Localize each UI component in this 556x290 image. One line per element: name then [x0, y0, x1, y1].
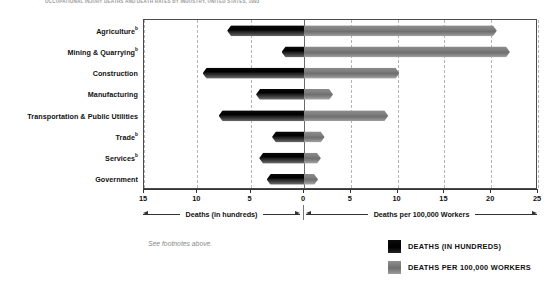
gridline-25: [538, 20, 539, 188]
x-tick: [250, 189, 251, 193]
bar-face: [304, 68, 399, 79]
bar-deaths-manufacturing: [256, 89, 304, 100]
bar-face: [304, 131, 325, 142]
x-tick: [537, 189, 538, 193]
bar-face: [304, 110, 388, 121]
right-arrow-icon: [475, 214, 537, 215]
bar-face: [203, 68, 304, 79]
plot-area: AgriculturebMining & QuarryingbConstruct…: [143, 19, 537, 189]
x-tick-label: 15: [139, 194, 147, 203]
category-label-trade: Tradeb: [116, 132, 138, 141]
axis-label-right-group: Deaths per 100,000 Workers: [306, 207, 537, 221]
bar-deaths-transportation-public-utilities: [219, 110, 304, 121]
category-label-agriculture: Agricultureb: [96, 26, 138, 35]
x-tick: [350, 189, 351, 193]
bar-row: Government: [144, 169, 536, 190]
x-tick: [443, 189, 444, 193]
x-tick: [196, 189, 197, 193]
bar-row: Manufacturing: [144, 84, 536, 105]
bar-rate-construction: [304, 68, 399, 79]
bar-row: Servicesb: [144, 148, 536, 169]
bar-row: Tradeb: [144, 126, 536, 147]
bar-rate-services: [304, 153, 321, 164]
axis-label-rate: Deaths per 100,000 Workers: [371, 210, 473, 219]
left-arrow-icon: [306, 214, 368, 215]
x-tick-label: 0: [301, 194, 305, 203]
footnote-text: See footnotes above.: [148, 240, 212, 247]
bar-deaths-trade: [272, 131, 304, 142]
bar-face: [304, 153, 321, 164]
bar-face: [282, 46, 304, 57]
bar-face: [304, 174, 318, 185]
axis-label-deaths: Deaths (in hundreds): [183, 210, 261, 219]
footnote-marker: b: [135, 153, 138, 158]
category-label-government: Government: [95, 175, 138, 184]
x-tick-label: 5: [248, 194, 252, 203]
bar-face: [304, 25, 497, 36]
category-label-mining-quarrying: Mining & Quarryingb: [67, 47, 138, 56]
x-tick: [143, 189, 144, 193]
axis-center-divider: [303, 205, 304, 220]
x-tick-label: 15: [439, 194, 447, 203]
category-label-services: Servicesb: [105, 153, 138, 162]
legend-item: DEATHS PER 100,000 WORKERS: [388, 261, 531, 274]
category-label-manufacturing: Manufacturing: [88, 90, 138, 99]
x-tick-label: 10: [192, 194, 200, 203]
bar-row: Construction: [144, 63, 536, 84]
axis-direction-labels: Deaths (in hundreds) Deaths per 100,000 …: [143, 207, 537, 223]
legend-swatch-black: [388, 240, 401, 253]
bar-deaths-agriculture: [227, 25, 304, 36]
legend: DEATHS (IN HUNDREDS)DEATHS PER 100,000 W…: [388, 240, 531, 274]
category-label-construction: Construction: [93, 69, 138, 78]
bar-face: [259, 153, 304, 164]
x-tick-label: 25: [533, 194, 541, 203]
x-tick-label: 5: [348, 194, 352, 203]
bar-deaths-government: [267, 174, 304, 185]
bar-row: Agricultureb: [144, 20, 536, 41]
category-label-transportation-public-utilities: Transportation & Public Utilities: [27, 111, 138, 120]
bar-deaths-mining-quarrying: [282, 46, 304, 57]
bar-face: [272, 131, 304, 142]
bar-face: [256, 89, 304, 100]
bar-face: [304, 89, 333, 100]
bar-face: [227, 25, 304, 36]
axis-label-left-group: Deaths (in hundreds): [143, 207, 300, 221]
footnote-marker: b: [135, 132, 138, 137]
legend-label: DEATHS PER 100,000 WORKERS: [408, 263, 531, 272]
x-tick-label: 10: [392, 194, 400, 203]
bar-rate-agriculture: [304, 25, 497, 36]
right-arrow-icon: [263, 214, 300, 215]
bar-face: [219, 110, 304, 121]
footnote-marker: b: [135, 47, 138, 52]
legend-label: DEATHS (IN HUNDREDS): [408, 242, 501, 251]
bar-face: [304, 46, 510, 57]
bar-rate-trade: [304, 131, 325, 142]
bar-face: [267, 174, 304, 185]
bar-rate-mining-quarrying: [304, 46, 510, 57]
left-arrow-icon: [143, 214, 180, 215]
x-tick-label: 20: [486, 194, 494, 203]
legend-item: DEATHS (IN HUNDREDS): [388, 240, 531, 253]
bar-rate-government: [304, 174, 318, 185]
footnote-marker: b: [135, 26, 138, 31]
bar-rate-transportation-public-utilities: [304, 110, 388, 121]
legend-swatch-gray: [388, 261, 401, 274]
bar-deaths-services: [259, 153, 304, 164]
x-tick: [397, 189, 398, 193]
bar-deaths-construction: [203, 68, 304, 79]
bar-rate-manufacturing: [304, 89, 333, 100]
bar-row: Mining & Quarryingb: [144, 41, 536, 62]
bar-row: Transportation & Public Utilities: [144, 105, 536, 126]
x-axis: 151050510152025: [143, 189, 537, 190]
x-tick: [490, 189, 491, 193]
chart-title: OCCUPATIONAL INJURY DEATHS AND DEATH RAT…: [45, 0, 545, 4]
x-tick: [303, 189, 304, 193]
